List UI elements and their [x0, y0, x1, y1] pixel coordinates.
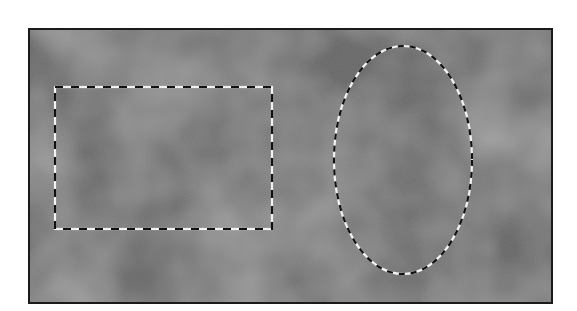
rectangular-marquee-selection[interactable] [55, 87, 272, 229]
image-canvas[interactable] [28, 28, 553, 304]
selection-overlay [30, 30, 551, 302]
elliptical-marquee-selection[interactable] [334, 46, 472, 274]
